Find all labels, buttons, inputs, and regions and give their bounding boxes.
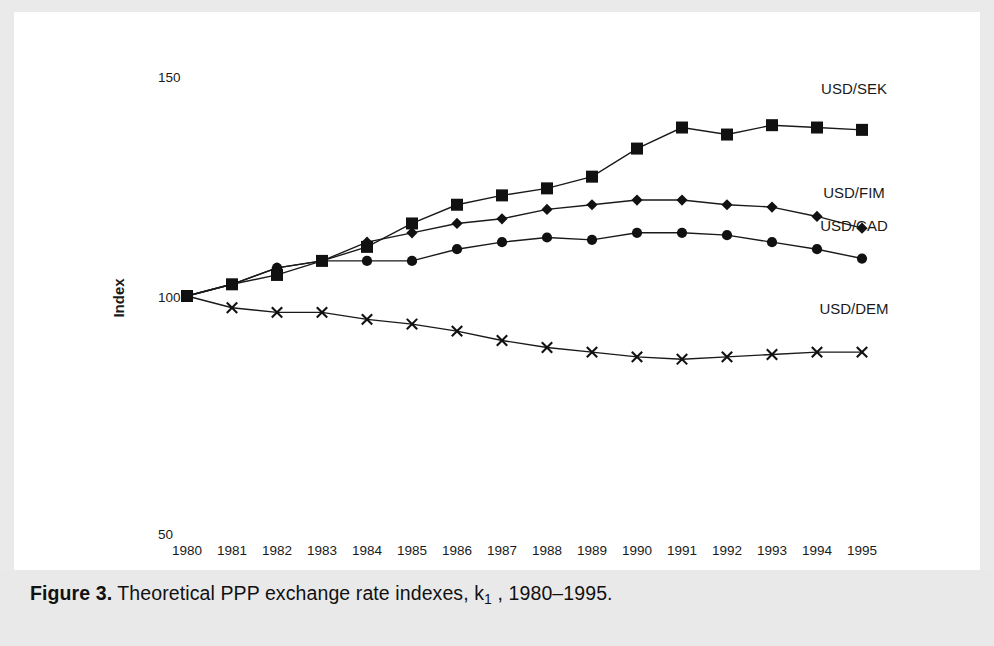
data-point-marker — [857, 253, 867, 263]
data-point-marker — [676, 122, 688, 134]
data-point-marker — [362, 256, 372, 266]
x-axis-tick-label: 1994 — [802, 543, 833, 558]
data-point-marker — [227, 279, 237, 289]
x-axis-tick-label: 1993 — [757, 543, 787, 558]
x-axis-tick-label: 1985 — [397, 543, 427, 558]
plot-card: 150 100 50 Index 19801981198219831984198… — [14, 12, 980, 570]
x-axis-tick-label: 1984 — [352, 543, 383, 558]
y-axis-mid-label: 100 — [158, 290, 181, 305]
figure-caption-text-1: Theoretical PPP exchange rate indexes, k — [112, 582, 484, 604]
series-label-usd-cad: USD/CAD — [820, 217, 888, 234]
series-label-usd-dem: USD/DEM — [819, 300, 888, 317]
y-axis-title: Index — [110, 278, 127, 318]
data-point-marker — [721, 199, 732, 210]
figure-caption-subscript: 1 — [484, 591, 492, 607]
series-line-usd-fim — [187, 200, 862, 296]
data-point-marker — [452, 244, 462, 254]
series-label-usd-sek: USD/SEK — [821, 80, 887, 97]
figure-container: 150 100 50 Index 19801981198219831984198… — [0, 0, 994, 646]
data-point-marker — [496, 189, 508, 201]
data-point-marker — [856, 124, 868, 136]
data-point-marker — [677, 228, 687, 238]
data-point-marker — [542, 232, 552, 242]
caption-band: Figure 3. Theoretical PPP exchange rate … — [0, 570, 994, 646]
figure-caption: Figure 3. Theoretical PPP exchange rate … — [30, 582, 960, 607]
series-line-usd-cad — [187, 233, 862, 296]
data-point-marker — [541, 182, 553, 194]
x-axis-tick-label: 1995 — [847, 543, 877, 558]
series-line-usd-dem — [187, 296, 862, 359]
figure-caption-label: Figure 3. — [30, 582, 112, 604]
series-line-usd-sek — [187, 125, 862, 296]
data-point-marker — [811, 122, 823, 134]
x-axis-tick-label: 1990 — [622, 543, 652, 558]
x-axis-tick-label: 1986 — [442, 543, 472, 558]
x-axis-tick-label: 1982 — [262, 543, 292, 558]
x-axis-tick-label: 1983 — [307, 543, 337, 558]
x-axis-tick-label: 1989 — [577, 543, 607, 558]
x-axis-tick-label: 1981 — [217, 543, 247, 558]
data-point-marker — [586, 199, 597, 210]
data-point-marker — [722, 230, 732, 240]
line-chart: 150 100 50 Index 19801981198219831984198… — [14, 12, 980, 570]
data-point-marker — [767, 237, 777, 247]
data-point-marker — [451, 218, 462, 229]
data-point-marker — [317, 256, 327, 266]
data-point-marker — [632, 228, 642, 238]
x-axis-tick-labels: 1980198119821983198419851986198719881989… — [172, 543, 877, 558]
x-axis-tick-label: 1987 — [487, 543, 517, 558]
x-axis-tick-label: 1991 — [667, 543, 697, 558]
chart-plot-area: 150 100 50 Index 19801981198219831984198… — [14, 12, 980, 570]
data-point-marker — [766, 201, 777, 212]
x-axis-tick-label: 1980 — [172, 543, 202, 558]
data-point-marker — [272, 263, 282, 273]
series-lines-group — [187, 125, 862, 359]
data-point-marker — [676, 194, 687, 205]
data-point-marker — [812, 244, 822, 254]
figure-caption-text-2: , 1980–1995. — [492, 582, 613, 604]
y-axis-top-label: 150 — [158, 70, 181, 85]
series-label-usd-fim: USD/FIM — [823, 184, 885, 201]
data-point-marker — [451, 199, 463, 211]
x-axis-tick-label: 1988 — [532, 543, 562, 558]
data-point-marker — [766, 119, 778, 131]
data-point-marker — [631, 143, 643, 155]
data-point-marker — [497, 237, 507, 247]
data-point-marker — [496, 213, 507, 224]
data-point-marker — [721, 129, 733, 141]
data-point-marker — [407, 256, 417, 266]
data-point-marker — [631, 194, 642, 205]
data-point-marker — [541, 204, 552, 215]
y-axis-bottom-label: 50 — [158, 527, 173, 542]
data-point-marker — [587, 235, 597, 245]
series-inline-labels-group: USD/SEKUSD/FIMUSD/CADUSD/DEM — [819, 80, 888, 317]
x-axis-tick-label: 1992 — [712, 543, 742, 558]
data-point-marker — [586, 171, 598, 183]
